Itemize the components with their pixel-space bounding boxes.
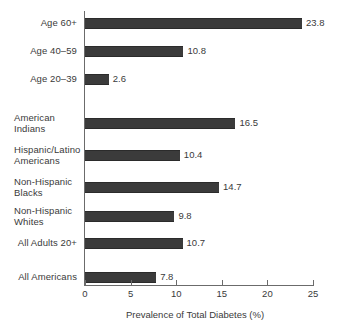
bar-value-label: 10.7 [187, 237, 206, 249]
category-label: Non-Hispanic Whites [14, 206, 84, 227]
bar-value-label: 7.8 [160, 271, 173, 283]
x-axis-line [84, 285, 314, 286]
x-axis-tick-mark [313, 280, 314, 285]
bar [85, 182, 219, 193]
bar-row: American Indians16.5 [0, 118, 338, 130]
bar-value-label: 9.8 [178, 210, 191, 222]
bar-value-label: 10.4 [184, 149, 203, 161]
bar [85, 118, 235, 129]
category-label: All Adults 20+ [0, 238, 77, 249]
bar-value-label: 10.8 [187, 45, 206, 57]
bar-row: Hispanic/Latino Americans10.4 [0, 150, 338, 162]
x-axis-tick-label: 25 [298, 288, 328, 299]
bar-row: Non-Hispanic Blacks14.7 [0, 182, 338, 194]
x-axis-tick-mark [222, 280, 223, 285]
bar [85, 46, 183, 57]
x-axis-tick-mark [267, 280, 268, 285]
bar-row: All Americans7.8 [0, 272, 338, 284]
bar-row: Age 40–5910.8 [0, 46, 338, 58]
bar [85, 211, 174, 222]
bar-row: All Adults 20+10.7 [0, 238, 338, 250]
bar [85, 74, 109, 85]
bar [85, 150, 180, 161]
x-axis-tick-mark [131, 280, 132, 285]
category-label: American Indians [14, 113, 84, 134]
x-axis-tick-label: 20 [252, 288, 282, 299]
bar-chart-figure: Age 60+23.8Age 40–5910.8Age 20–392.6Amer… [0, 0, 338, 329]
category-label: Hispanic/Latino Americans [14, 145, 84, 166]
x-axis-tick-label: 5 [116, 288, 146, 299]
bar [85, 272, 156, 283]
bar-row: Non-Hispanic Whites9.8 [0, 211, 338, 223]
bar-row: Age 60+23.8 [0, 18, 338, 30]
x-axis-tick-mark [176, 280, 177, 285]
category-label: Age 40–59 [0, 46, 77, 57]
bar-value-label: 23.8 [306, 17, 325, 29]
category-label: Non-Hispanic Blacks [14, 177, 84, 198]
bar [85, 238, 183, 249]
category-label: Age 60+ [0, 18, 77, 29]
x-axis-title: Prevalence of Total Diabetes (%) [0, 309, 338, 320]
x-axis-tick-label: 10 [161, 288, 191, 299]
x-axis-tick-mark [85, 280, 86, 285]
category-label: Age 20–39 [0, 74, 77, 85]
bar-row: Age 20–392.6 [0, 74, 338, 86]
bar-value-label: 14.7 [223, 181, 242, 193]
bar-value-label: 2.6 [113, 73, 126, 85]
category-label: All Americans [0, 272, 77, 283]
x-axis-tick-label: 15 [207, 288, 237, 299]
x-axis-tick-label: 0 [70, 288, 100, 299]
bar [85, 18, 302, 29]
bar-value-label: 16.5 [239, 117, 258, 129]
